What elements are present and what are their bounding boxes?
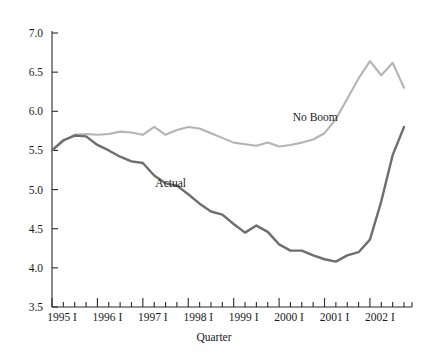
x-tick-label: 2001 I [320,311,350,323]
chart-container: 3.54.04.55.05.56.06.57.0 1995 I1996 I199… [0,0,428,353]
series-label-actual: Actual [155,177,186,189]
data-series-group [52,61,404,261]
y-tick-label: 5.5 [29,144,44,156]
x-tick-label: 1996 I [93,311,123,323]
x-tick-label: 1998 I [183,311,213,323]
x-axis-ticks: 1995 I1996 I1997 I1998 I1999 I2000 I2001… [47,298,412,323]
y-tick-label: 6.0 [29,105,44,117]
series-label-no-boom: No Boom [293,111,338,123]
x-tick-label: 1999 I [229,311,259,323]
x-tick-label: 1997 I [138,311,168,323]
x-tick-label: 2002 I [365,311,395,323]
series-line-no-boom [52,61,404,150]
line-chart: 3.54.04.55.05.56.06.57.0 1995 I1996 I199… [0,0,428,353]
y-tick-label: 4.0 [29,262,44,274]
x-tick-label: 2000 I [274,311,304,323]
y-tick-label: 7.0 [29,27,44,39]
series-line-actual [52,127,404,262]
y-tick-label: 6.5 [29,66,44,78]
y-axis-ticks: 3.54.04.55.05.56.06.57.0 [29,27,58,313]
y-tick-label: 4.5 [29,223,44,235]
series-annotations: No BoomActual [155,111,337,190]
y-tick-label: 3.5 [29,301,44,313]
y-tick-label: 5.0 [29,184,44,196]
x-axis-title: Quarter [196,331,231,343]
x-tick-label: 1995 I [47,311,77,323]
